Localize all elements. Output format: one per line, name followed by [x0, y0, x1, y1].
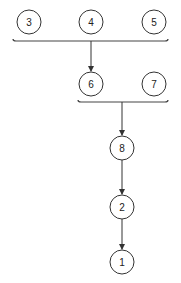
- node-2: 2: [110, 195, 134, 219]
- diagram-canvas: 3 4 5 6 7 8 2 1: [0, 0, 181, 283]
- node-3-label: 3: [26, 17, 32, 28]
- node-7: 7: [142, 72, 166, 96]
- node-6-label: 6: [88, 79, 94, 90]
- node-1-label: 1: [119, 257, 125, 268]
- node-8: 8: [110, 136, 134, 160]
- node-3: 3: [17, 10, 41, 34]
- node-4: 4: [79, 10, 103, 34]
- node-1: 1: [110, 250, 134, 274]
- node-2-label: 2: [119, 202, 125, 213]
- group-bracket-3-4-5: [13, 39, 168, 41]
- node-8-label: 8: [119, 143, 125, 154]
- node-7-label: 7: [151, 79, 157, 90]
- node-6: 6: [79, 72, 103, 96]
- group-bracket-6-7: [78, 100, 168, 102]
- node-4-label: 4: [88, 17, 94, 28]
- node-5: 5: [142, 10, 166, 34]
- node-5-label: 5: [151, 17, 157, 28]
